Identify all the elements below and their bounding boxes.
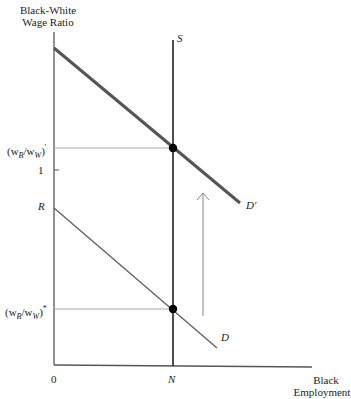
supply-label: S	[177, 32, 183, 44]
x-tick-N-label: N	[168, 373, 175, 385]
x-axis	[54, 365, 312, 367]
demand-shifted-label: D'	[246, 199, 256, 211]
equilibrium-point-prime	[169, 144, 177, 152]
x-axis-label: Black Employment	[296, 374, 351, 398]
demand-shifted-curve	[54, 48, 240, 203]
x-axis-label-line2: Employment	[288, 386, 351, 398]
y-tick-ratio-prime: (wB/wW)'	[7, 142, 46, 162]
origin-label: 0	[51, 373, 57, 385]
demand-curve	[54, 208, 217, 348]
demand-label: D	[221, 331, 229, 343]
y-tick-one-label: 1	[38, 164, 44, 176]
y-axis-label-line2: Wage Ratio	[8, 16, 88, 28]
y-tick-R-label: R	[38, 200, 45, 212]
diagram-canvas	[0, 0, 351, 399]
x-axis-label-line1: Black	[296, 374, 351, 386]
y-tick-ratio-star: (wB/wW)*	[5, 303, 47, 323]
y-axis-label-line1: Black-White	[8, 4, 88, 16]
y-axis-label: Black-White Wage Ratio	[8, 4, 88, 28]
equilibrium-point-star	[169, 305, 177, 313]
